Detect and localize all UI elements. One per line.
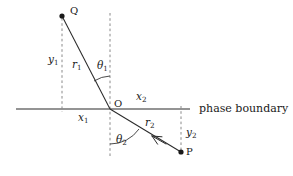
angle-label-theta1: θ1 bbox=[97, 60, 108, 72]
point-marker-Q bbox=[59, 13, 64, 18]
segment-label-r2-subscript: 2 bbox=[150, 121, 155, 130]
segment-label-y1: y1 bbox=[48, 54, 58, 66]
point-label-O: O bbox=[114, 99, 122, 109]
refraction-diagram: Q O P y1 r1 θ1 x1 x2 r2 θ2 y2 phase boun… bbox=[0, 0, 293, 176]
segment-label-r1: r1 bbox=[72, 59, 82, 71]
segment-label-y2-subscript: 2 bbox=[192, 131, 197, 140]
segment-label-r2: r2 bbox=[145, 117, 155, 129]
segment-label-y2: y2 bbox=[186, 127, 196, 139]
segment-label-x1-subscript: 1 bbox=[84, 116, 89, 125]
angle-label-theta1-subscript: 1 bbox=[103, 64, 108, 73]
angle-arc-theta1 bbox=[94, 76, 110, 81]
point-label-P: P bbox=[186, 147, 193, 157]
segment-label-y1-subscript: 1 bbox=[54, 58, 59, 67]
segment-label-x2: x2 bbox=[136, 91, 146, 103]
segment-label-x2-subscript: 2 bbox=[142, 95, 147, 104]
angle-label-theta2-subscript: 2 bbox=[122, 138, 127, 147]
phase-boundary-caption: phase boundary bbox=[199, 103, 288, 114]
point-marker-P bbox=[178, 149, 183, 154]
diagram-canvas bbox=[0, 0, 293, 176]
segment-label-x1: x1 bbox=[78, 112, 88, 124]
point-label-Q: Q bbox=[70, 6, 78, 16]
segment-label-r1-subscript: 1 bbox=[77, 63, 82, 72]
angle-label-theta2: θ2 bbox=[116, 134, 127, 146]
ray-direction-arrowhead bbox=[152, 136, 166, 144]
